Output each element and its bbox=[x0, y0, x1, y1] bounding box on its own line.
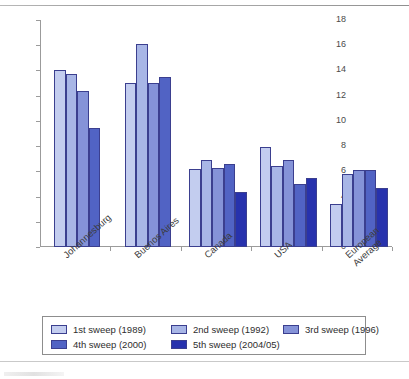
legend-item[interactable]: 1st sweep (1989) bbox=[51, 324, 146, 335]
y-axis-tick bbox=[36, 20, 40, 21]
legend-swatch-icon bbox=[51, 340, 67, 349]
legend-item-label: 3rd sweep (1996) bbox=[305, 324, 379, 335]
y-axis-tick bbox=[36, 171, 40, 172]
legend-item[interactable]: 2nd sweep (1992) bbox=[171, 324, 269, 335]
bar bbox=[125, 83, 137, 247]
y-axis-tick-label: 10 bbox=[324, 116, 346, 125]
legend-item[interactable]: 3rd sweep (1996) bbox=[283, 324, 379, 335]
x-axis-tick bbox=[322, 247, 323, 251]
bar bbox=[271, 166, 283, 247]
y-axis-tick bbox=[36, 45, 40, 46]
bar bbox=[66, 74, 78, 247]
x-axis-tick bbox=[392, 247, 393, 251]
y-axis-tick bbox=[36, 121, 40, 122]
legend-swatch-icon bbox=[171, 340, 187, 349]
chart-legend: 1st sweep (1989)2nd sweep (1992)3rd swee… bbox=[42, 316, 366, 355]
x-axis-tick bbox=[251, 247, 252, 251]
page-footer-mark bbox=[4, 372, 64, 376]
legend-item[interactable]: 4th sweep (2000) bbox=[51, 339, 146, 350]
y-axis-tick bbox=[36, 70, 40, 71]
legend-swatch-icon bbox=[283, 325, 299, 334]
bar bbox=[306, 178, 318, 247]
y-axis-tick-label: 8 bbox=[324, 141, 346, 150]
y-axis-tick-label: 18 bbox=[324, 15, 346, 24]
bar bbox=[201, 160, 213, 247]
y-axis-line bbox=[40, 20, 41, 247]
legend-item-label: 1st sweep (1989) bbox=[73, 324, 146, 335]
y-axis-tick bbox=[36, 197, 40, 198]
bar bbox=[294, 184, 306, 247]
bar bbox=[148, 83, 160, 247]
bar bbox=[77, 91, 89, 247]
page-top-rule bbox=[0, 5, 409, 6]
legend-item-label: 2nd sweep (1992) bbox=[193, 324, 269, 335]
bar bbox=[235, 192, 247, 247]
plot-area: 024681012141618 bbox=[40, 20, 392, 247]
legend-item-label: 4th sweep (2000) bbox=[73, 339, 146, 350]
y-axis-tick bbox=[36, 146, 40, 147]
y-axis-tick bbox=[36, 222, 40, 223]
legend-item-label: 5th sweep (2004/05) bbox=[193, 339, 280, 350]
y-axis-tick-label: 14 bbox=[324, 65, 346, 74]
y-axis-tick-label: 16 bbox=[324, 40, 346, 49]
y-axis-tick bbox=[36, 247, 40, 248]
legend-swatch-icon bbox=[51, 325, 67, 334]
bar bbox=[136, 44, 148, 247]
bar bbox=[54, 70, 66, 247]
page-bottom-rule bbox=[0, 361, 409, 362]
x-axis-tick bbox=[110, 247, 111, 251]
y-axis-tick bbox=[36, 96, 40, 97]
x-axis-tick bbox=[181, 247, 182, 251]
bar bbox=[260, 147, 272, 247]
bar bbox=[283, 160, 295, 247]
chart-page: 024681012141618 JohannesburgBuenos Aires… bbox=[0, 0, 409, 379]
y-axis-tick-label: 12 bbox=[324, 91, 346, 100]
bar bbox=[342, 174, 354, 247]
bar bbox=[330, 204, 342, 247]
legend-swatch-icon bbox=[171, 325, 187, 334]
legend-item[interactable]: 5th sweep (2004/05) bbox=[171, 339, 280, 350]
bar bbox=[189, 169, 201, 247]
